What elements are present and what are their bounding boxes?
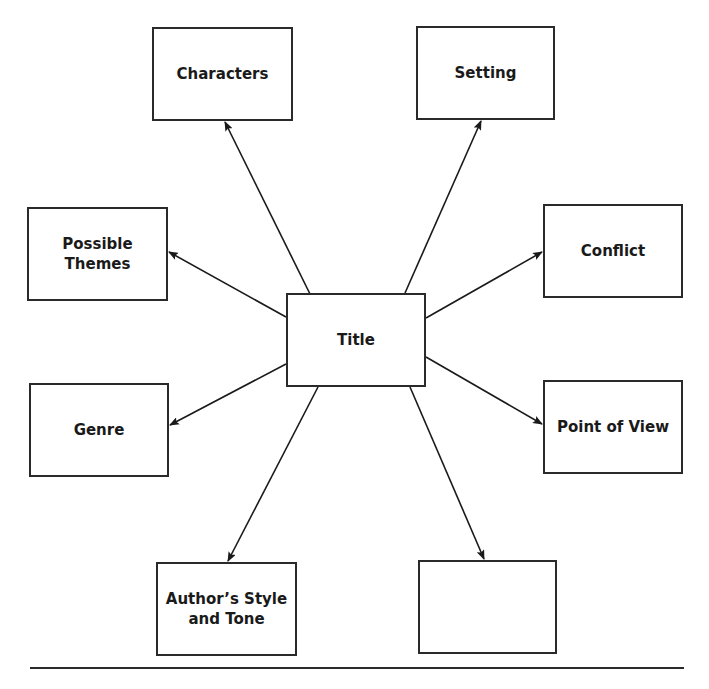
conflict-label: Conflict bbox=[581, 241, 645, 261]
genre-label: Genre bbox=[74, 420, 125, 440]
arrow-to-style bbox=[228, 387, 318, 561]
title-box: Title bbox=[286, 293, 426, 387]
blank-box bbox=[418, 560, 557, 654]
conflict-box: Conflict bbox=[543, 204, 683, 298]
possible-themes-label: Possible Themes bbox=[62, 234, 132, 274]
possible-themes-box: Possible Themes bbox=[27, 207, 168, 301]
setting-box: Setting bbox=[416, 26, 555, 120]
authors-style-label: Author’s Style and Tone bbox=[166, 589, 287, 629]
authors-style-box: Author’s Style and Tone bbox=[156, 562, 297, 656]
setting-label: Setting bbox=[455, 63, 517, 83]
arrow-to-setting bbox=[405, 121, 481, 293]
genre-box: Genre bbox=[29, 383, 169, 477]
arrow-to-characters bbox=[225, 122, 310, 294]
arrow-to-pov bbox=[426, 357, 542, 424]
characters-label: Characters bbox=[177, 64, 269, 84]
title-label: Title bbox=[337, 330, 375, 350]
arrow-to-blank bbox=[410, 387, 484, 559]
point-of-view-box: Point of View bbox=[543, 380, 683, 474]
arrow-to-themes bbox=[169, 252, 286, 317]
characters-box: Characters bbox=[152, 27, 293, 121]
arrow-to-conflict bbox=[426, 252, 542, 318]
bottom-divider bbox=[30, 667, 684, 669]
point-of-view-label: Point of View bbox=[557, 417, 669, 437]
arrow-to-genre bbox=[170, 364, 286, 425]
